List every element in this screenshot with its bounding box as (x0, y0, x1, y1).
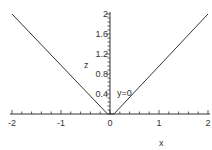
y-tick-label: 1.6 (95, 29, 108, 39)
y-tick-label: 0.4 (95, 89, 108, 99)
y-tick-label: 2 (103, 9, 108, 19)
y-tick-label: 0.8 (95, 69, 108, 79)
y-axis-label: z (84, 60, 89, 70)
axes: -2-10120.40.81.21.62 (8, 9, 211, 128)
x-tick-label: -2 (8, 118, 16, 128)
x-tick-label: 1 (156, 118, 161, 128)
x-tick-label: 2 (205, 118, 210, 128)
chart: -2-10120.40.81.21.62 z x y=0 (0, 0, 212, 150)
x-axis-label: x (159, 138, 164, 148)
x-tick-label: 0 (107, 118, 112, 128)
annotation-y0: y=0 (117, 88, 132, 98)
x-tick-label: -1 (57, 118, 65, 128)
y-tick-label: 1.2 (95, 49, 108, 59)
